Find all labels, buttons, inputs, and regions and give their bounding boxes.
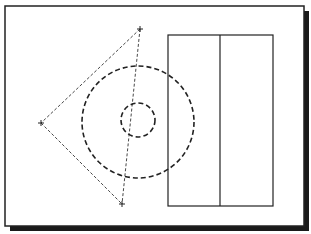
- drawing-frame: [5, 6, 304, 226]
- drawing-canvas: [0, 0, 311, 234]
